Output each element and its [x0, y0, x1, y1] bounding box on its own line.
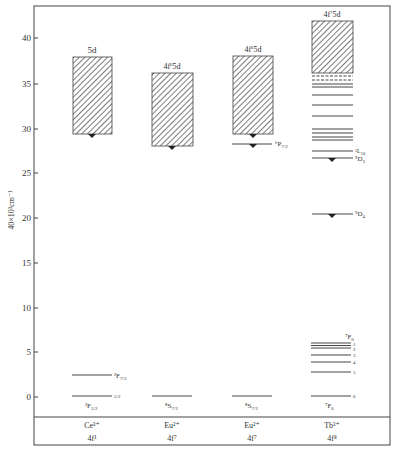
column-ce3: 5d ²F7/2 5/2 ²F5/2 Ce³⁺ 4f¹	[72, 45, 127, 443]
svg-text:⁶P7/2: ⁶P7/2	[275, 140, 288, 149]
5d-band	[73, 57, 112, 134]
emitting-level-marker	[168, 146, 176, 150]
y-axis	[34, 38, 38, 397]
svg-text:²F5/2: ²F5/2	[85, 402, 98, 411]
level-side-label: 5/2	[114, 394, 121, 399]
column-tb3: 4f75d ⁵L10 ⁵D3 ⁵D4 ⁷F0	[311, 10, 366, 443]
emitting-level-marker	[249, 144, 257, 148]
tb-excited-levels	[312, 76, 353, 214]
ion-label: Ce³⁺	[84, 421, 100, 430]
svg-text:4f65d: 4f65d	[244, 45, 261, 54]
energy-level-diagram: 0 5 10 15 20 25 30 35 40 40×10³cm⁻¹ 5d ²…	[0, 0, 397, 450]
svg-text:⁵D4: ⁵D4	[355, 210, 366, 219]
4f6-5d-band	[233, 56, 273, 134]
ion-label: Eu²⁺	[164, 421, 180, 430]
j-label: 4	[353, 360, 356, 365]
y-tick-label: 30	[22, 124, 32, 134]
config-label: 4f¹	[87, 434, 97, 443]
config-label: 4f⁷	[167, 434, 177, 443]
y-tick-label: 5	[27, 347, 32, 357]
j-label: 6	[353, 394, 356, 399]
level-label: ⁵D	[355, 210, 363, 218]
y-tick-label: 10	[22, 303, 32, 313]
tb-7F-manifold	[311, 343, 351, 396]
emitting-level-marker	[328, 214, 336, 218]
y-tick-label: 35	[22, 79, 32, 89]
emitting-level-marker	[88, 134, 96, 138]
column-eu2-a: 4f65d ⁸S7/2 Eu²⁺ 4f⁷	[152, 62, 193, 443]
level-label: ⁵D	[355, 155, 363, 163]
j-label: 3	[353, 353, 356, 358]
4f7-5d-band	[312, 21, 353, 73]
4f6-5d-band	[152, 73, 193, 146]
j-label: 5	[353, 370, 356, 375]
ion-label: Tb³⁺	[324, 421, 340, 430]
ion-label: Eu²⁺	[244, 421, 260, 430]
emitting-level-marker	[328, 158, 336, 162]
column-eu2-b: 4f65d ⁶P7/2 ⁸S7/2 Eu²⁺ 4f⁷	[232, 45, 288, 443]
svg-text:²F7/2: ²F7/2	[114, 372, 127, 381]
svg-text:4f65d: 4f65d	[163, 62, 180, 71]
emitting-level-marker	[249, 134, 257, 138]
y-axis-title: 40×10³cm⁻¹	[7, 190, 16, 230]
y-tick-label: 20	[22, 213, 32, 223]
svg-text:⁸S7/2: ⁸S7/2	[165, 402, 178, 411]
svg-text:⁷F0: ⁷F0	[345, 333, 354, 342]
y-tick-label: 15	[22, 258, 32, 268]
config-label: 4f⁷	[247, 434, 257, 443]
svg-text:⁷F6: ⁷F6	[325, 402, 334, 411]
svg-text:4f75d: 4f75d	[323, 10, 340, 19]
svg-text:⁸S7/2: ⁸S7/2	[245, 402, 258, 411]
y-tick-label: 40	[22, 33, 32, 43]
y-tick-label: 25	[22, 168, 32, 178]
y-tick-label: 0	[27, 392, 32, 402]
config-label: 4f⁸	[327, 434, 337, 443]
svg-text:⁵D3: ⁵D3	[355, 155, 366, 164]
band-label: 5d	[88, 45, 98, 55]
j-label: 2	[353, 347, 356, 352]
